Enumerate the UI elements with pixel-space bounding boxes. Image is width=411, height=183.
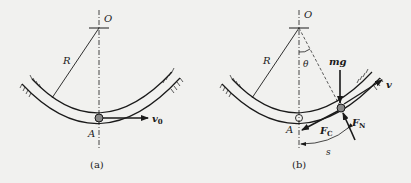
label-center-o: O bbox=[104, 13, 112, 24]
angle-arc bbox=[299, 49, 310, 52]
tube-inner-wall bbox=[32, 72, 172, 113]
label-point-a: A bbox=[87, 128, 95, 139]
figure-a: O R A v0 (a) bbox=[20, 10, 183, 170]
label-arc-length-s: s bbox=[326, 147, 331, 157]
radius-line bbox=[52, 28, 99, 98]
label-gravity-mg: mg bbox=[329, 56, 347, 67]
bead bbox=[337, 104, 345, 112]
label-normal-fn: FN bbox=[351, 117, 366, 130]
hatching-right bbox=[163, 68, 183, 93]
caption-a: (a) bbox=[90, 159, 104, 170]
label-friction-fc: FC bbox=[319, 125, 333, 138]
tube-inner-wall bbox=[232, 72, 372, 113]
label-radius: R bbox=[62, 55, 71, 66]
label-center-o: O bbox=[304, 9, 312, 20]
figure-canvas: O R A v0 (a) bbox=[0, 0, 411, 183]
label-angle-theta: θ bbox=[303, 59, 309, 69]
label-radius: R bbox=[262, 55, 271, 66]
bead bbox=[95, 114, 103, 122]
label-velocity-v: v bbox=[386, 79, 392, 90]
caption-b: (b) bbox=[292, 159, 306, 170]
label-velocity-v0: v0 bbox=[152, 113, 163, 126]
radius-line bbox=[252, 28, 299, 98]
diagram-svg: O R A v0 (a) bbox=[0, 0, 411, 183]
figure-b: O R θ mg v A FC FN s (b) bbox=[220, 9, 392, 170]
label-point-a: A bbox=[285, 124, 293, 135]
